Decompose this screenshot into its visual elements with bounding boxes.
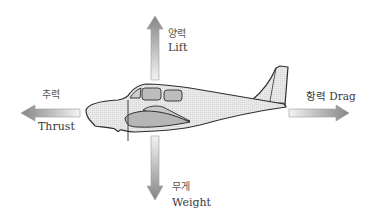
thrust-arrow-icon bbox=[21, 105, 80, 121]
drag-label: 항력 Drag bbox=[306, 91, 356, 102]
window-2 bbox=[164, 90, 182, 101]
airplane-icon bbox=[86, 66, 288, 141]
drag-arrow-icon bbox=[289, 105, 349, 121]
thrust-label-ko: 추력 bbox=[42, 90, 60, 100]
fuselage bbox=[86, 84, 286, 132]
lift-label-ko: 양력 bbox=[168, 29, 186, 39]
weight-label-ko: 무게 bbox=[172, 182, 190, 192]
weight-label-en: Weight bbox=[172, 197, 211, 208]
weight-arrow-icon bbox=[147, 136, 163, 200]
window-1 bbox=[142, 88, 161, 100]
four-forces-diagram: 양력 Lift 무게 Weight 추력 Thrust 항력 Drag bbox=[0, 0, 369, 224]
lift-label-en: Lift bbox=[168, 42, 187, 53]
thrust-label-en: Thrust bbox=[38, 121, 75, 132]
lift-arrow-icon bbox=[147, 16, 163, 80]
